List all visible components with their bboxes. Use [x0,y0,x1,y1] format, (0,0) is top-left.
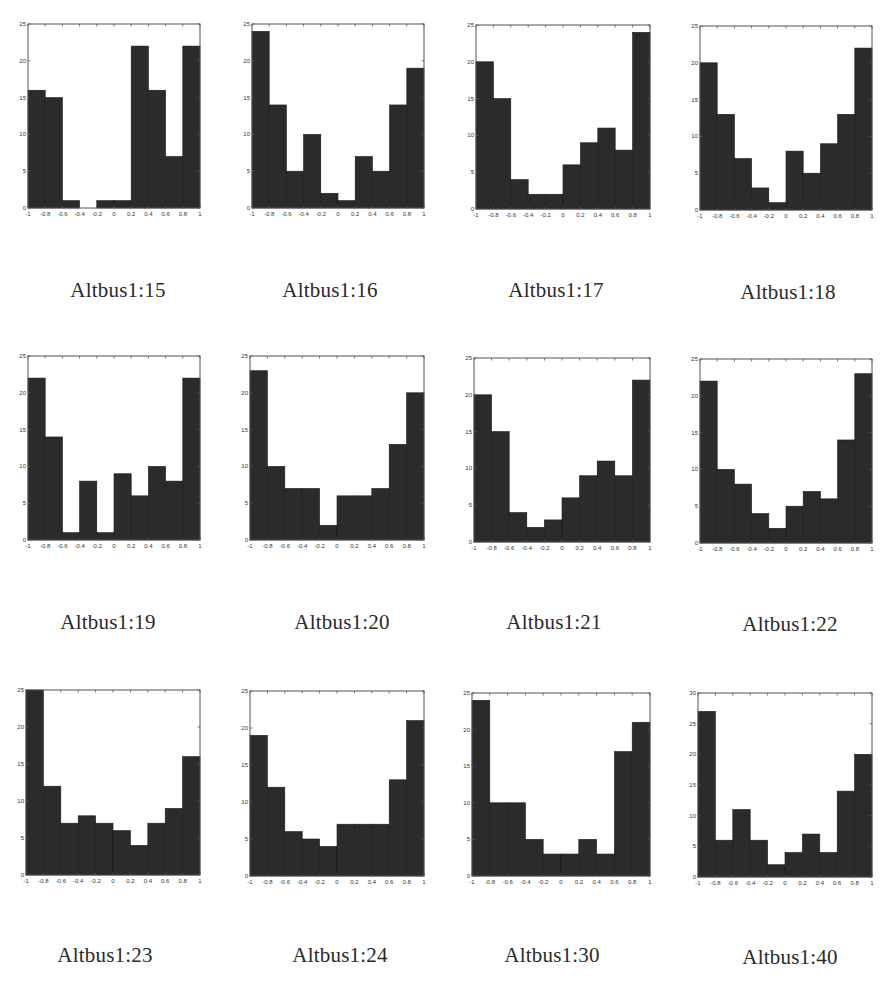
x-tick-label: -0.4 [74,543,85,549]
histogram-caption-10: Altbus1:24 [292,943,387,968]
histogram-bar [267,787,284,876]
histogram-bar [389,780,406,876]
histogram-bar [717,469,734,543]
y-tick-label: 15 [691,430,698,436]
x-tick-label: 0.4 [816,546,825,552]
histogram-svg: -1-0.8-0.6-0.4-0.200.20.40.60.8105101520… [474,358,650,556]
y-tick-label: 20 [241,725,248,731]
histogram-bar [372,824,389,876]
x-tick-label: 0 [111,878,115,884]
x-tick-label: -1 [473,212,479,218]
histogram-bar [285,488,302,540]
histogram-bar [131,46,148,208]
histogram-caption-11: Altbus1:30 [504,943,599,968]
x-tick-label: -0.8 [485,879,496,885]
y-tick-label: 15 [465,429,472,435]
histogram-caption-7: Altbus1:21 [506,610,601,635]
x-tick-label: 0.8 [179,543,188,549]
x-tick-label: 0 [336,211,340,217]
histogram-bar [750,840,767,877]
y-tick-label: 25 [465,355,472,361]
histogram-bar [114,201,131,208]
x-tick-label: -1 [25,543,31,549]
y-tick-label: 20 [17,724,24,730]
histogram-bar [769,203,786,210]
histogram-bar [267,466,284,540]
y-tick-label: 25 [691,356,698,362]
histogram-bars [472,700,650,876]
x-tick-label: -0.2 [539,545,550,551]
x-tick-label: 1 [198,543,202,549]
x-tick-label: 0.8 [628,545,637,551]
histogram-bar [563,165,580,209]
y-tick-label: 15 [241,427,248,433]
x-tick-label: 0.6 [611,545,620,551]
x-tick-label: 0.4 [816,213,825,219]
y-tick-label: 25 [241,688,248,694]
x-tick-label: 0.2 [351,211,360,217]
x-tick-label: -0.8 [712,546,723,552]
histogram-bar [130,845,147,875]
y-tick-label: 25 [689,721,696,727]
x-tick-label: 0.2 [350,879,359,885]
histogram-bar [354,824,371,876]
x-tick-label: -0.6 [57,543,68,549]
x-tick-label: -0.8 [38,878,49,884]
histogram-bars [700,374,872,543]
histogram-bar [183,757,200,875]
histogram-bar [183,378,200,540]
x-tick-label: -0.6 [729,546,740,552]
y-tick-label: 10 [467,132,474,138]
y-tick-label: 10 [19,463,26,469]
histogram-svg: -1-0.8-0.6-0.4-0.200.20.40.60.8105101520… [476,25,650,223]
histogram-bar [786,151,803,210]
x-tick-label: -0.4 [297,543,308,549]
histogram-bar [785,852,802,877]
histogram-bar [733,810,750,877]
histogram-caption-5: Altbus1:19 [60,610,155,635]
x-tick-label: -0.2 [92,211,103,217]
x-tick-label: 1 [198,878,202,884]
x-tick-label: -0.6 [280,879,291,885]
histogram-bar [752,188,769,210]
histogram-bars [698,711,872,877]
x-tick-label: -0.2 [764,213,775,219]
y-tick-label: 25 [463,690,470,696]
histogram-bar [837,791,854,877]
histogram-bars [250,721,424,876]
histogram-bar [511,180,528,209]
x-tick-label: 0.2 [127,211,136,217]
histogram-svg: -1-0.8-0.6-0.4-0.200.20.40.60.8105101520… [26,690,200,889]
x-tick-label: -0.4 [297,879,308,885]
histogram-bar [598,128,615,209]
histogram-bar [527,527,545,542]
histogram-svg: -1-0.8-0.6-0.4-0.200.20.40.60.8105101520… [250,356,424,554]
x-tick-label: 0.4 [592,879,601,885]
histogram-bar [131,496,148,540]
x-tick-label: 0.2 [799,546,808,552]
x-tick-label: 0.8 [179,211,188,217]
histogram-bar [321,193,338,208]
x-tick-label: 0.8 [850,880,859,886]
histogram-bar [148,823,165,875]
y-tick-label: 25 [467,22,474,28]
histogram-bar [286,171,303,208]
x-tick-label: 0.6 [161,878,170,884]
histogram-bar [269,105,286,208]
histogram-bar [320,846,337,876]
x-tick-label: 0.2 [127,543,136,549]
histogram-bar [62,533,79,540]
histogram-bar [337,496,354,540]
histogram-svg: -1-0.8-0.6-0.4-0.200.20.40.60.8105101520… [250,691,424,890]
histogram-bar [544,520,562,542]
histogram-bar [614,752,632,876]
x-tick-label: -0.6 [728,880,739,886]
histogram-bar [113,831,130,875]
x-tick-label: -0.8 [486,545,497,551]
x-tick-label: 0.6 [611,212,620,218]
histogram-bar [855,374,872,543]
histogram-bar [820,852,837,877]
histogram-bar [820,144,837,210]
histogram-bars [28,378,200,540]
y-tick-label: 25 [19,21,26,27]
